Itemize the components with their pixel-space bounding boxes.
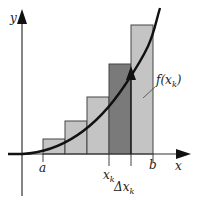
rectangle-2: [65, 121, 87, 154]
ticks: [43, 154, 153, 166]
riemann-sum-diagram: y x a b xk Δxk f(xk): [0, 0, 198, 210]
fxk-label: f(xk): [155, 73, 182, 89]
y-axis-label: y: [9, 11, 17, 25]
b-label: b: [149, 158, 157, 172]
a-label: a: [39, 161, 46, 175]
x-axis-arrow-icon: [176, 149, 191, 159]
x-axis-label: x: [175, 159, 182, 173]
rectangles: [43, 25, 153, 154]
delta-xk-label: Δxk: [113, 180, 134, 196]
y-axis-arrow-icon: [17, 9, 27, 24]
xk-label: xk: [103, 168, 115, 184]
